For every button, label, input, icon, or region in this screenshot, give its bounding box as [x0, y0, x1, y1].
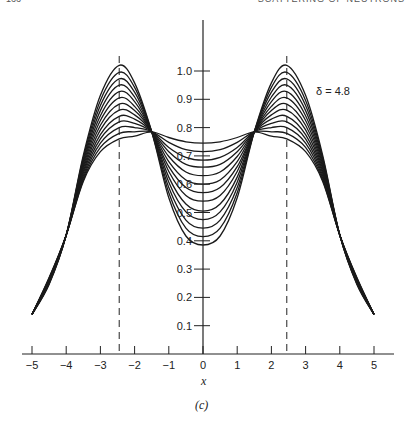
- x-tick-label: −2: [128, 359, 141, 371]
- x-tick-label: 1: [234, 359, 240, 371]
- x-tick-label: −1: [163, 359, 176, 371]
- delta-annotation: δ = 4.8: [316, 85, 350, 97]
- y-tick-label: 0.9: [177, 93, 192, 105]
- x-tick-label: 0: [200, 359, 206, 371]
- line-chart: −5−4−3−2−1012345 0.10.20.30.40.50.60.70.…: [0, 0, 411, 423]
- x-tick-label: −4: [60, 359, 73, 371]
- x-tick-label: 5: [371, 359, 377, 371]
- x-tick-label: 3: [303, 359, 309, 371]
- x-tick-label: 2: [268, 359, 274, 371]
- y-tick-label: 0.3: [177, 263, 192, 275]
- y-tick-label: 0.5: [177, 207, 192, 219]
- x-tick-label: −3: [94, 359, 107, 371]
- y-tick-label: 0.7: [177, 150, 192, 162]
- x-tick-label: 4: [337, 359, 343, 371]
- y-tick-label: 0.8: [177, 122, 192, 134]
- y-tick-label: 0.1: [177, 320, 192, 332]
- panel-label: (c): [195, 398, 208, 412]
- x-ticks: −5−4−3−2−1012345: [26, 346, 377, 371]
- x-axis-title: x: [200, 374, 207, 388]
- x-tick-label: −5: [26, 359, 39, 371]
- y-tick-label: 0.2: [177, 291, 192, 303]
- y-tick-label: 0.4: [177, 235, 192, 247]
- y-tick-label: 0.6: [177, 178, 192, 190]
- y-tick-label: 1.0: [177, 65, 192, 77]
